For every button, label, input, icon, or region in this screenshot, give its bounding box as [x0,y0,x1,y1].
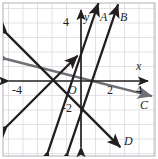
y-tick-neg2: -2 [62,102,72,114]
line-label-a: A [100,11,107,23]
graph-figure: x y O -4 2 4 4 -2 A B C D [0,0,158,159]
x-tick-2: 2 [107,84,113,96]
coordinate-plane-svg [0,0,158,159]
origin-label: O [68,84,77,96]
x-tick-neg4: -4 [12,84,22,96]
x-tick-4: 4 [136,84,142,96]
line-label-b: B [120,11,127,23]
line-label-d: D [124,135,133,147]
x-axis-label: x [136,60,141,72]
y-tick-4: 4 [63,16,69,28]
line-label-c: C [140,99,148,111]
y-axis-label: y [84,11,89,23]
